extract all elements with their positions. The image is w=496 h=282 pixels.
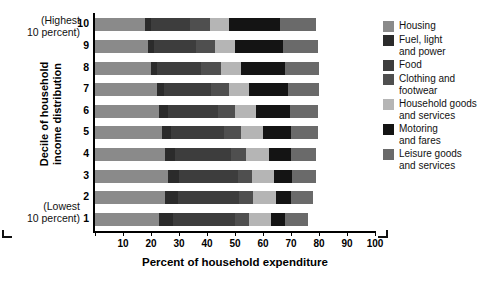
bar-segment: [274, 170, 292, 183]
bar-segment: [224, 126, 241, 139]
bar-segment: [95, 83, 157, 96]
y-tick-label: 1: [73, 212, 89, 224]
bar-segment: [249, 83, 288, 96]
bar-segment: [95, 62, 151, 75]
x-tick: [263, 231, 264, 236]
x-tick: [375, 231, 376, 236]
bar-segment: [164, 83, 212, 96]
y-tick-label: 3: [73, 169, 89, 181]
x-tick-label: 50: [229, 238, 240, 249]
y-tick-label: 7: [73, 82, 89, 94]
bar-row: 1: [95, 213, 375, 226]
x-axis-title: Percent of household expenditure: [95, 256, 375, 268]
bar-segment: [173, 213, 235, 226]
bar-segment: [95, 170, 168, 183]
bar-segment: [292, 170, 316, 183]
bar-row: 10: [95, 18, 375, 31]
bar-segment: [291, 126, 318, 139]
bar-segment: [179, 170, 238, 183]
y-tick-label: 4: [73, 147, 89, 159]
x-tick-label: 10: [117, 238, 128, 249]
bar-segment: [165, 148, 175, 161]
bar-segment: [154, 40, 196, 53]
bar-segment: [95, 105, 159, 118]
y-tick-label: 6: [73, 104, 89, 116]
bar-segment: [157, 83, 164, 96]
legend-item: Clothing and footwear: [383, 73, 491, 96]
x-tick: [123, 231, 124, 236]
bar-row: 8: [95, 62, 375, 75]
bar-segment: [229, 18, 279, 31]
bar-row: 7: [95, 83, 375, 96]
bar-segment: [151, 18, 190, 31]
corner-mark: [2, 230, 4, 237]
bar-segment: [283, 40, 318, 53]
legend-label: Food: [399, 59, 422, 71]
bar-segment: [241, 62, 286, 75]
bar-segment: [256, 105, 290, 118]
bar-segment: [253, 191, 275, 204]
bar-segment: [235, 213, 249, 226]
legend-label: Motoring and fares: [399, 123, 441, 146]
bar-segment: [235, 40, 283, 53]
x-tick: [151, 231, 152, 236]
bar-segment: [190, 18, 210, 31]
x-tick: [319, 231, 320, 236]
bar-segment: [95, 126, 162, 139]
bar-segment: [269, 148, 291, 161]
bar-segment: [215, 40, 235, 53]
legend-item: Leisure goods and services: [383, 148, 491, 171]
x-tick: [207, 231, 208, 236]
bar-segment: [241, 126, 263, 139]
x-tick: [235, 231, 236, 236]
bar-segment: [290, 105, 318, 118]
legend-swatch: [383, 35, 394, 46]
bar-segment: [239, 191, 253, 204]
bar-segment: [201, 62, 221, 75]
legend-swatch: [383, 149, 394, 160]
y-tick-label: 8: [73, 61, 89, 73]
legend: HousingFuel, light and powerFoodClothing…: [383, 20, 491, 173]
bar-segment: [211, 83, 229, 96]
y-tick-label: 10: [73, 17, 89, 29]
x-tick: [347, 231, 348, 236]
bar-segment: [231, 148, 246, 161]
bar-segment: [238, 170, 252, 183]
legend-label: Household goods and services: [399, 98, 477, 121]
x-tick-label: 70: [285, 238, 296, 249]
x-tick-label: 20: [145, 238, 156, 249]
legend-item: Fuel, light and power: [383, 34, 491, 57]
bar-segment: [165, 191, 178, 204]
bar-segment: [157, 62, 202, 75]
y-tick-label: 9: [73, 39, 89, 51]
bar-segment: [280, 18, 316, 31]
legend-swatch: [383, 99, 394, 110]
y-tick-label: 5: [73, 125, 89, 137]
bar-segment: [159, 213, 173, 226]
bar-row: 5: [95, 126, 375, 139]
legend-item: Motoring and fares: [383, 123, 491, 146]
bar-segment: [271, 213, 285, 226]
bar-segment: [95, 18, 145, 31]
bar-segment: [285, 213, 307, 226]
legend-swatch: [383, 124, 394, 135]
bar-row: 3: [95, 170, 375, 183]
x-tick-label: 80: [313, 238, 324, 249]
x-tick-label: 40: [201, 238, 212, 249]
x-tick-label: 90: [341, 238, 352, 249]
bar-segment: [218, 105, 235, 118]
bar-segment: [162, 126, 170, 139]
bar-segment: [168, 170, 179, 183]
bar-segment: [252, 170, 274, 183]
bar-row: 4: [95, 148, 375, 161]
corner-mark: [386, 230, 388, 237]
bar-segment: [249, 213, 271, 226]
bar-segment: [95, 213, 159, 226]
legend-label: Housing: [399, 20, 436, 32]
x-tick: [179, 231, 180, 236]
bar-row: 6: [95, 105, 375, 118]
legend-item: Housing: [383, 20, 491, 32]
plot-area: 102030405060708090100 10987654321: [95, 14, 375, 230]
x-axis-ticks: 102030405060708090100: [95, 231, 375, 253]
bar-segment: [229, 83, 249, 96]
